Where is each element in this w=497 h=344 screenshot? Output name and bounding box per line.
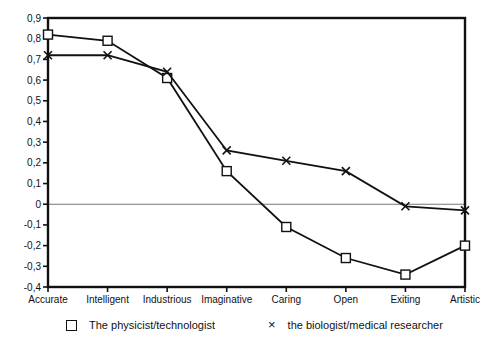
legend: The physicist/technologist × the biologi… [0,316,497,338]
x-category-label: Artistic [450,294,480,305]
legend-item-biologist: × the biologist/medical researcher [268,319,443,331]
attribute-ratings-figure: 0,90,80,70,60,50,40,30,20,10-0,1-0,2-0,3… [0,0,497,344]
y-tick-label: 0,9 [27,13,41,24]
y-tick-label: -0,2 [24,240,42,251]
y-tick-label: -0,1 [24,219,42,230]
square-marker-icon [66,320,77,331]
legend-item-physicist: The physicist/technologist [66,319,215,331]
square-marker-icon [222,167,231,176]
x-category-label: Caring [272,294,301,305]
y-tick-label: -0,3 [24,261,42,272]
y-tick-label: 0,2 [27,157,41,168]
square-marker-icon [401,270,410,279]
y-tick-label: 0,1 [27,178,41,189]
x-category-label: Exiting [390,294,420,305]
square-marker-icon [461,241,470,250]
x-category-label: Intelligent [86,294,129,305]
square-marker-icon [44,30,53,39]
attribute-ratings-line-chart: 0,90,80,70,60,50,40,30,20,10-0,1-0,2-0,3… [0,0,497,344]
y-tick-label: 0,4 [27,116,41,127]
x-category-label: Accurate [28,294,68,305]
x-category-label: Open [334,294,358,305]
square-marker-icon [341,254,350,263]
y-tick-label: 0,7 [27,54,41,65]
y-tick-label: 0,5 [27,95,41,106]
y-tick-label: 0,3 [27,137,41,148]
y-tick-label: 0,8 [27,33,41,44]
legend-label-physicist: The physicist/technologist [89,319,215,331]
legend-label-biologist: the biologist/medical researcher [288,319,443,331]
square-marker-icon [282,222,291,231]
x-category-label: Industrious [143,294,192,305]
y-tick-label: 0,6 [27,75,41,86]
y-tick-label: -0,4 [24,282,42,293]
series-line-0 [48,35,465,275]
series-line-1 [48,55,465,210]
x-category-label: Imaginative [201,294,253,305]
y-tick-label: 0 [35,199,41,210]
square-marker-icon [103,36,112,45]
x-marker-icon: × [268,320,276,329]
